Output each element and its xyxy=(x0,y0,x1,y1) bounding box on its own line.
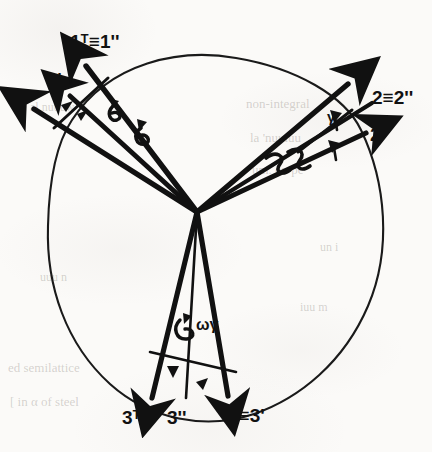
axis-2-cluster xyxy=(197,84,372,212)
gamma-arrowhead-bottom-left xyxy=(167,366,179,378)
label-axis-1-prime: 1' xyxy=(48,70,62,89)
axis-2-line xyxy=(197,84,348,212)
axis-1-prime-line xyxy=(70,96,197,212)
axis-1-transpose-line xyxy=(86,66,197,212)
label-omega-gamma-bottom: ωγ xyxy=(196,316,219,333)
label-axis-1: 1 xyxy=(10,88,21,109)
label-axis-2-transpose: 2ᵀ xyxy=(370,124,389,145)
gamma-arrowhead-bottom-right xyxy=(196,378,208,390)
label-gamma-right: γ xyxy=(327,108,336,125)
axis-3-cluster xyxy=(150,212,236,398)
label-axis-2: 2 xyxy=(352,59,363,80)
diagram-svg: 1 1' 1ᵀ≡1'' 2 2≡2'' 2ᵀ 3ᵀ 3'' 3≡3' γ ωγ xyxy=(0,0,432,452)
label-axis-2-equiv: 2≡2'' xyxy=(372,87,413,108)
label-axis-3-equiv: 3≡3' xyxy=(228,405,265,426)
label-axis-1-transpose-equiv: 1ᵀ≡1'' xyxy=(70,31,120,52)
label-axis-3-transpose: 3ᵀ xyxy=(122,407,141,428)
label-axis-3-double-prime: 3'' xyxy=(167,407,187,428)
axis-2-equiv-line xyxy=(197,103,372,212)
figure-canvas: non-integralla 'nuuiuuum. on peal nuuuwu… xyxy=(0,0,432,452)
